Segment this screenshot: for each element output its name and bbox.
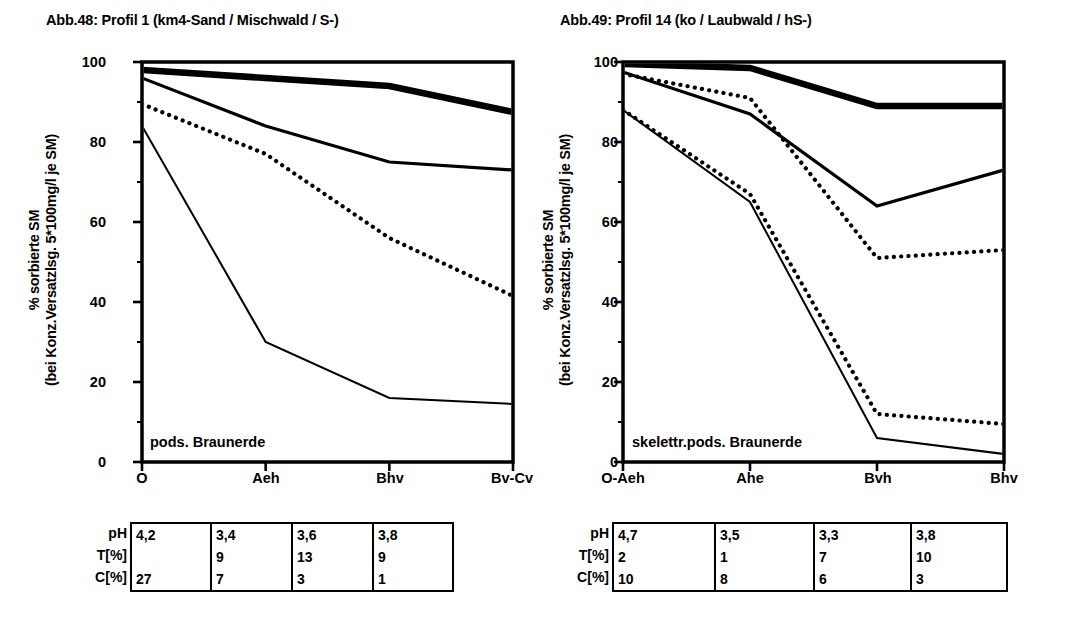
cell-ph-0-left: 4,2 xyxy=(131,523,211,546)
table-row-labels-left: pH T[%] C[%] xyxy=(95,522,130,588)
cell-t-0-left xyxy=(131,546,211,568)
table-row: 2 1 7 10 xyxy=(613,546,1007,568)
cell-ph-2-left: 3,6 xyxy=(292,523,373,546)
data-table-right: pH T[%] C[%] 4,7 3,5 3,3 3,8 2 1 7 10 10… xyxy=(612,522,1008,592)
cell-c-1-right: 8 xyxy=(715,568,814,591)
cell-t-2-left: 13 xyxy=(292,546,373,568)
table-row: 27 7 3 1 xyxy=(131,568,453,591)
figure-panel-right: Abb.49: Profil 14 (ko / Laubwald / hS-) … xyxy=(540,0,1080,626)
row-label-c-right: C[%] xyxy=(577,566,609,588)
table-grid-left: 4,2 3,4 3,6 3,8 9 13 9 27 7 3 1 xyxy=(130,522,454,592)
cell-t-0-right: 2 xyxy=(613,546,715,568)
plot-area-right xyxy=(540,0,1080,500)
row-label-c-left: C[%] xyxy=(95,566,127,588)
cell-c-0-right: 10 xyxy=(613,568,715,591)
cell-c-0-left: 27 xyxy=(131,568,211,591)
table-row: 10 8 6 3 xyxy=(613,568,1007,591)
chart-svg-right xyxy=(540,0,1080,500)
cell-t-1-right: 1 xyxy=(715,546,814,568)
cell-ph-0-right: 4,7 xyxy=(613,523,715,546)
data-table-left: pH T[%] C[%] 4,2 3,4 3,6 3,8 9 13 9 27 7… xyxy=(130,522,454,592)
chart-svg-left xyxy=(0,0,540,500)
row-label-t-left: T[%] xyxy=(95,544,127,566)
plot-area-left xyxy=(0,0,540,500)
table-row-labels-right: pH T[%] C[%] xyxy=(577,522,612,588)
cell-ph-3-right: 3,8 xyxy=(911,523,1007,546)
cell-c-1-left: 7 xyxy=(211,568,292,591)
cell-ph-1-right: 3,5 xyxy=(715,523,814,546)
cell-c-2-left: 3 xyxy=(292,568,373,591)
cell-c-2-right: 6 xyxy=(814,568,911,591)
cell-t-3-left: 9 xyxy=(373,546,453,568)
table-grid-right: 4,7 3,5 3,3 3,8 2 1 7 10 10 8 6 3 xyxy=(612,522,1008,592)
table-row: 4,7 3,5 3,3 3,8 xyxy=(613,523,1007,546)
cell-c-3-right: 3 xyxy=(911,568,1007,591)
cell-t-2-right: 7 xyxy=(814,546,911,568)
row-label-ph-left: pH xyxy=(95,522,127,544)
cell-c-3-left: 1 xyxy=(373,568,453,591)
cell-t-1-left: 9 xyxy=(211,546,292,568)
cell-ph-1-left: 3,4 xyxy=(211,523,292,546)
table-row: 4,2 3,4 3,6 3,8 xyxy=(131,523,453,546)
row-label-t-right: T[%] xyxy=(577,544,609,566)
figure-panel-left: Abb.48: Profil 1 (km4-Sand / Mischwald /… xyxy=(0,0,540,626)
cell-t-3-right: 10 xyxy=(911,546,1007,568)
cell-ph-3-left: 3,8 xyxy=(373,523,453,546)
table-row: 9 13 9 xyxy=(131,546,453,568)
row-label-ph-right: pH xyxy=(577,522,609,544)
cell-ph-2-right: 3,3 xyxy=(814,523,911,546)
